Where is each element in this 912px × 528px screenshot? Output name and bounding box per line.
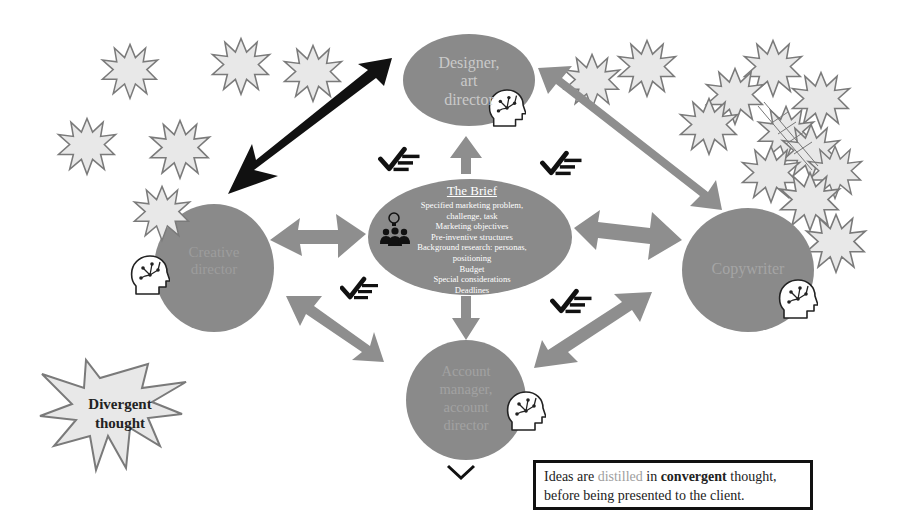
brief-item: Pre-inventive structures bbox=[372, 232, 572, 243]
account-label-line: director bbox=[408, 416, 524, 434]
starburst-icon bbox=[58, 118, 115, 174]
starburst-icon bbox=[102, 44, 157, 98]
starburst-icon bbox=[564, 54, 619, 108]
brief-item: Budget bbox=[372, 264, 572, 275]
starburst-icon bbox=[284, 45, 341, 101]
head-circuit-icon bbox=[780, 280, 818, 318]
designer-label-line: director bbox=[410, 91, 528, 109]
designer-label: Designer, art director bbox=[410, 54, 528, 109]
arrow-creative-brief bbox=[270, 214, 366, 258]
arrow-creative-account bbox=[286, 296, 384, 362]
brief-item: Marketing objectives bbox=[372, 221, 572, 232]
check-list-icon bbox=[381, 149, 420, 171]
check-list-icon bbox=[543, 153, 582, 175]
brief-item: Background research: personas, bbox=[372, 242, 572, 253]
callout-distilled: distilled bbox=[598, 469, 643, 484]
designer-label-line: Designer, bbox=[410, 54, 528, 72]
starburst-icon bbox=[807, 215, 866, 273]
creative-label-line: director bbox=[160, 261, 268, 278]
callout-text: Ideas are distilled in convergent though… bbox=[544, 467, 777, 505]
brief-item: challenge, task bbox=[372, 211, 572, 222]
arrow-brief-account-down bbox=[452, 296, 480, 340]
copywriter-label: Copywriter bbox=[684, 260, 812, 278]
divergent-line: Divergent bbox=[70, 395, 170, 414]
brief-title: The Brief bbox=[372, 183, 572, 199]
callout-line2: before being presented to the client. bbox=[544, 488, 745, 503]
designer-label-line: art bbox=[410, 72, 528, 90]
callout-text-part: thought, bbox=[727, 469, 777, 484]
account-label-line: manager, bbox=[408, 380, 524, 398]
convergent-callout: Ideas are distilled in convergent though… bbox=[533, 460, 813, 510]
brief-item: Deadlines bbox=[372, 285, 572, 296]
brief-item: positioning bbox=[372, 253, 572, 264]
callout-convergent: convergent bbox=[661, 469, 727, 484]
callout-text-part: Ideas are bbox=[544, 469, 598, 484]
chevron-down-icon bbox=[448, 466, 474, 478]
copywriter-label-line: Copywriter bbox=[684, 260, 812, 278]
callout-text-part: in bbox=[643, 469, 661, 484]
account-manager-label: Account manager, account director bbox=[408, 362, 524, 434]
brief-content: The Brief Specified marketing problem, c… bbox=[372, 183, 572, 295]
starburst-icon bbox=[212, 38, 269, 94]
creative-director-label: Creative director bbox=[160, 244, 268, 279]
divergent-line: thought bbox=[70, 414, 170, 433]
starburst-icon bbox=[618, 40, 675, 96]
account-label-line: Account bbox=[408, 362, 524, 380]
brief-item: Specified marketing problem, bbox=[372, 200, 572, 211]
divergent-thought-label: Divergent thought bbox=[70, 395, 170, 433]
brief-item: Special considerations bbox=[372, 274, 572, 285]
creative-label-line: Creative bbox=[160, 244, 268, 261]
account-label-line: account bbox=[408, 398, 524, 416]
arrow-brief-designer bbox=[450, 136, 482, 174]
starburst-icon bbox=[151, 121, 210, 179]
arrow-brief-copywriter bbox=[574, 210, 682, 260]
starburst-icon bbox=[792, 72, 849, 128]
